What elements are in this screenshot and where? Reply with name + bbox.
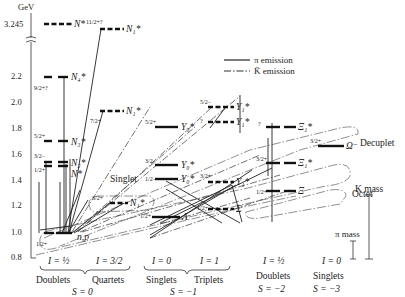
level-label-xi-a: Ξ₁* xyxy=(298,122,312,132)
spin-y1a: 5/2− xyxy=(200,99,212,105)
spin-y0c: 1/2− xyxy=(145,176,157,182)
level-label-y0a: Y₀* xyxy=(181,122,195,132)
xi-omega-levels: Ξ₁* ? Ξ₁* 3/2+ Ξ 1/2+ Ω⁻ 3/2+ xyxy=(256,121,358,196)
legend-pi: π emission xyxy=(254,55,293,65)
mass-axis: GeV 3.245 2.2 2.0 1.8 1.6 1.4 1.2 1.0 0.… xyxy=(4,2,36,262)
spin-xi-b: 3/2+ xyxy=(256,156,268,162)
level-label-np: n,p xyxy=(77,232,89,242)
tick-1-4: 1.4 xyxy=(11,175,22,185)
spin-y0b: 3/2− xyxy=(145,158,157,164)
label-decuplet: Decuplet xyxy=(360,138,395,148)
s3-i1: I = 0 xyxy=(321,256,341,266)
s2-strangeness: S = −2 xyxy=(258,284,285,294)
level-label-y1a: Y₁* xyxy=(236,102,250,112)
spin-sigma: 1/2+ xyxy=(197,205,209,211)
spin-y1c: 3/2+ xyxy=(200,173,212,179)
s1-strangeness: S = −1 xyxy=(170,287,197,297)
level-label-n4: N₄* xyxy=(70,72,86,82)
legend: π emission K̄ emission xyxy=(224,55,295,76)
spin-xi: 1/2+ xyxy=(256,189,268,195)
level-label-xi: Ξ xyxy=(298,186,305,196)
label-singlet: Singlet xyxy=(110,174,137,184)
s0-i2: I = 3/2 xyxy=(95,256,123,266)
group-labels: I = ½ I = 3/2 Doublets Quartets S = 0 I … xyxy=(36,256,344,297)
tick-1-2: 1.2 xyxy=(11,200,22,210)
tick-1-0: 1.0 xyxy=(11,227,22,237)
spin-n2: 3/2− xyxy=(34,153,46,159)
level-label-y0b: Y₀* xyxy=(181,160,195,170)
level-label-n3: N₃* xyxy=(70,137,86,147)
spin-xi-a: ? xyxy=(258,121,261,127)
s0-quartets: Quartets xyxy=(92,275,124,285)
legend-kbar: K̄ emission xyxy=(254,66,295,76)
s1-triplets: Triplets xyxy=(194,275,224,285)
tick-3245: 3.245 xyxy=(4,19,23,29)
spin-np: 1/2+ xyxy=(36,241,48,247)
spin-n-mid: 7/2+ xyxy=(90,118,102,124)
level-label-nstar: N* xyxy=(73,19,85,29)
level-label-xi-b: Ξ₁* xyxy=(298,158,312,168)
level-label-y0c: Y₀* xyxy=(181,174,195,184)
spin-n-high: 11/2+? xyxy=(86,19,103,25)
lambda-levels: Y₀* 5/2+ Y₀* 3/2− Y₀* 1/2− Λ 1/2+ xyxy=(140,119,195,222)
s1-i1: I = 0 xyxy=(151,256,171,266)
level-label-n-high: N₁* xyxy=(125,24,141,34)
label-k-mass: K mass xyxy=(355,184,384,194)
s3-strangeness: S = −3 xyxy=(313,284,340,294)
axis-unit: GeV xyxy=(18,2,35,12)
spin-omega: 3/2+ xyxy=(310,138,322,144)
level-label-lambda: Λ xyxy=(181,212,188,222)
level-label-sigma: Σ xyxy=(235,204,242,214)
tick-1-6: 1.6 xyxy=(11,149,22,159)
level-label-y1c: Y₁* xyxy=(236,177,250,187)
level-label-omega: Ω⁻ xyxy=(346,141,358,151)
spin-n1: 1/2+ xyxy=(34,167,46,173)
spin-n4: 9/2+? xyxy=(34,85,48,91)
s0-doublets: Doublets xyxy=(36,275,71,285)
spin-n-low: 3/2+ xyxy=(92,195,104,201)
s2-doublets: Doublets xyxy=(256,271,291,281)
s0-i1: I = ½ xyxy=(47,256,69,266)
level-label-y1b: Y₁* xyxy=(236,117,250,127)
label-pi-mass: π mass xyxy=(335,229,360,239)
tick-1-8: 1.8 xyxy=(11,123,22,133)
spin-y1b: ? xyxy=(200,118,203,124)
tick-2-2: 2.2 xyxy=(11,71,22,81)
s0-strangeness: S = 0 xyxy=(72,287,93,297)
spin-lambda: 1/2+ xyxy=(140,213,152,219)
level-label-n-mid: N₁* xyxy=(125,106,141,116)
level-label-n1: N* xyxy=(70,169,82,179)
s1-i2: I = 1 xyxy=(199,256,219,266)
s2-i1: I = ½ xyxy=(262,256,284,266)
s3-singlets: Singlets xyxy=(313,271,344,281)
level-label-n2: N₂* xyxy=(70,158,86,168)
tick-0-8: 0.8 xyxy=(11,252,22,262)
baryon-mass-level-diagram: GeV 3.245 2.2 2.0 1.8 1.6 1.4 1.2 1.0 0.… xyxy=(0,0,405,297)
spin-n3: 5/2+ xyxy=(34,133,46,139)
tick-2-0: 2.0 xyxy=(11,97,22,107)
spin-y0a: 5/2+ xyxy=(145,119,157,125)
nucleon-levels: N* N₄* 9/2+? N₃* 5/2+ N₂* 3/2− N* 1/2+ N… xyxy=(34,19,145,247)
s1-singlets: Singlets xyxy=(146,275,177,285)
level-label-n-low: N₁* xyxy=(129,198,145,208)
